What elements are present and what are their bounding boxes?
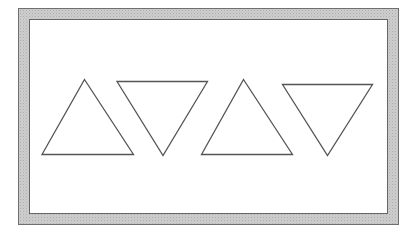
figure-canvas xyxy=(0,0,417,232)
picture-frame-inner xyxy=(29,19,388,214)
picture-frame xyxy=(18,8,399,225)
